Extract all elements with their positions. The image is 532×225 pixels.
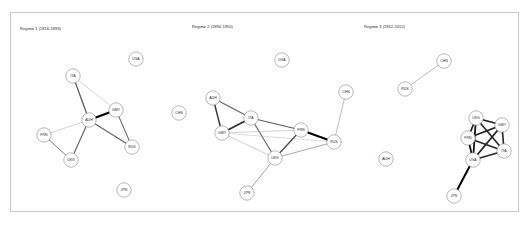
network-node[interactable]: JPN [447,189,461,203]
panel-1-network: USAITAGMYCHNAUHFRNRUSUKGJPN [11,13,186,213]
node-label: USA [132,57,140,61]
node-label: UKG [67,158,75,162]
panel-3-network: CHNRUSUKGGMYFRNITAAUHUSAJPN [356,13,530,213]
panel-2-edges [213,92,346,193]
node-label: GMY [112,108,121,112]
node-label: ITA [70,74,76,78]
node-label: USA [469,158,477,162]
network-node[interactable]: USA [275,53,289,67]
node-label: JPN [244,191,251,195]
network-node[interactable]: USA [466,153,480,167]
network-node[interactable]: CHN [437,54,451,68]
network-edge [89,120,132,147]
node-label: FRN [40,133,48,137]
network-node[interactable]: FRN [294,123,308,137]
network-node[interactable]: UKG [469,111,483,125]
panel-2-nodes: USACHNAUHITAFRNGMYRUSUKGJPN [206,53,353,200]
node-label: RUS [330,140,338,144]
node-label: RUS [128,145,136,149]
network-node[interactable]: AUH [379,152,393,166]
network-node[interactable]: USA [129,52,143,66]
panel-3-edges [405,61,504,196]
node-label: USA [278,58,286,62]
network-node[interactable]: RUS [125,140,139,154]
network-edge [222,130,301,133]
panel-2-network: USACHNAUHITAFRNGMYRUSUKGJPN [186,13,356,213]
network-figure: Regime 1 (1816-1893) USAITAGMYCHNAUHFRNR… [0,0,532,225]
node-label: CHN [440,59,448,63]
regime-panel-3: Regime 3 (1952-2012) CHNRUSUKGGMYFRNITAA… [356,13,530,213]
node-label: ITA [501,149,507,153]
network-edge [334,92,346,142]
network-node[interactable]: FRN [461,131,475,145]
network-node[interactable]: UKG [268,151,282,165]
network-node[interactable]: FRN [37,128,51,142]
network-node[interactable]: JPN [117,183,131,197]
node-label: AUH [85,118,93,122]
node-label: FRN [297,128,305,132]
network-node[interactable]: CHN [339,85,353,99]
network-node[interactable]: GMY [495,118,509,132]
network-node[interactable]: ITA [244,111,258,125]
node-label: JPN [451,194,458,198]
network-node[interactable]: AUH [206,91,220,105]
network-node[interactable]: ITA [66,69,80,83]
network-node[interactable]: UKG [64,153,78,167]
regime-panel-1: Regime 1 (1816-1893) USAITAGMYCHNAUHFRNR… [11,13,186,213]
panel-1-nodes: USAITAGMYCHNAUHFRNRUSUKGJPN [37,52,186,197]
node-label: RUS [401,87,409,91]
network-node[interactable]: AUH [82,113,96,127]
node-label: FRN [464,136,472,140]
network-node[interactable]: RUS [398,82,412,96]
node-label: CHN [342,90,350,94]
network-node[interactable]: GMY [109,103,123,117]
node-label: GMY [498,123,507,127]
regime-panel-2: Regime 2 (1894-1950) USACHNAUHITAFRNGMYR… [186,13,356,213]
node-label: GMY [218,131,227,135]
network-node[interactable]: CHN [172,106,186,120]
node-label: ITA [248,116,254,120]
network-edge [251,118,301,130]
node-label: UKG [472,116,480,120]
network-edge [275,142,334,158]
network-node[interactable]: JPN [240,186,254,200]
network-node[interactable]: RUS [327,135,341,149]
node-label: AUH [382,157,390,161]
figure-frame: Regime 1 (1816-1893) USAITAGMYCHNAUHFRNR… [10,12,519,212]
network-node[interactable]: GMY [215,126,229,140]
network-node[interactable]: ITA [497,144,511,158]
node-label: CHN [175,111,183,115]
node-label: AUH [209,96,217,100]
node-label: UKG [271,156,279,160]
node-label: JPN [121,188,128,192]
